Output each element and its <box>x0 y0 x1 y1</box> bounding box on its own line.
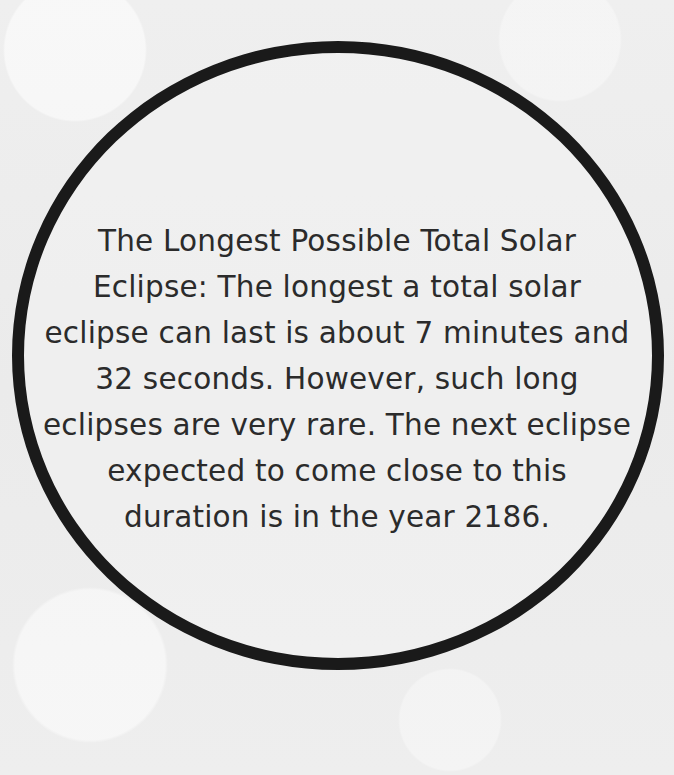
fact-line: duration is in the year 2186. <box>20 494 654 540</box>
fact-line: expected to come close to this <box>20 448 654 494</box>
fact-text: The Longest Possible Total Solar Eclipse… <box>20 218 654 540</box>
fact-line: Eclipse: The longest a total solar <box>20 264 654 310</box>
fact-line: eclipses are very rare. The next eclipse <box>20 402 654 448</box>
fact-line: 32 seconds. However, such long <box>20 356 654 402</box>
fact-line: The Longest Possible Total Solar <box>20 218 654 264</box>
fact-line: eclipse can last is about 7 minutes and <box>20 310 654 356</box>
